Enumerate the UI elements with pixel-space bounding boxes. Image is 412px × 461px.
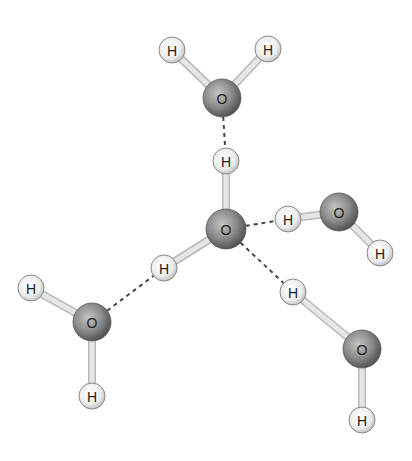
oxygen-atom: O (320, 193, 358, 231)
atom-label: O (87, 315, 98, 331)
hydrogen-atom: H (151, 255, 177, 281)
atom-label: H (87, 389, 97, 405)
atom-label: H (159, 261, 169, 277)
oxygen-atom: O (206, 209, 246, 249)
atom-label: H (288, 285, 298, 301)
atom-label: H (26, 281, 36, 297)
atom-label: H (375, 246, 385, 262)
atoms: OHHOHHOHHOHHOHH (18, 36, 393, 433)
atom-label: O (357, 342, 368, 358)
hydrogen-atom: H (18, 275, 44, 301)
hydrogen-atom: H (280, 279, 306, 305)
atom-label: H (167, 43, 177, 59)
hydrogen-bonds (107, 117, 283, 311)
oxygen-atom: O (73, 303, 111, 341)
hydrogen-bond-dashed-line (107, 276, 153, 311)
atom-label: H (221, 154, 231, 170)
atom-label: H (263, 42, 273, 58)
hydrogen-atom: H (275, 206, 301, 232)
hydrogen-atom: H (213, 148, 239, 174)
hydrogen-bond-dashed-line (223, 117, 225, 148)
hydrogen-bond-dashed-line (246, 221, 275, 226)
hydrogen-atom: H (255, 36, 281, 62)
oxygen-atom: O (343, 330, 381, 368)
atom-label: H (357, 413, 367, 429)
hydrogen-atom: H (367, 240, 393, 266)
atom-label: O (217, 91, 228, 107)
hydrogen-atom: H (79, 383, 105, 409)
atom-label: H (283, 212, 293, 228)
hydrogen-atom: H (349, 407, 375, 433)
atom-label: O (221, 222, 232, 238)
oxygen-atom: O (203, 79, 241, 117)
water-hydrogen-bond-diagram: OHHOHHOHHOHHOHH (0, 0, 412, 461)
hydrogen-bond-dashed-line (241, 243, 284, 283)
atom-label: O (334, 205, 345, 221)
hydrogen-atom: H (159, 37, 185, 63)
